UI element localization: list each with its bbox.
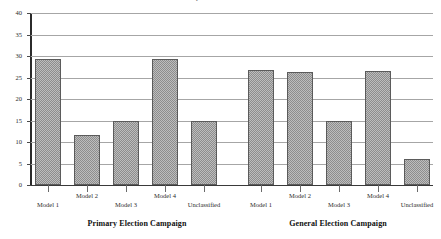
x-axis-label: Model 3: [115, 201, 137, 209]
bar: [35, 59, 61, 185]
bar: [152, 59, 178, 185]
y-tick-mark-40: [27, 13, 31, 14]
x-tick-mark: [165, 185, 166, 192]
x-axis-label: Unclassified: [401, 201, 434, 209]
bar: [326, 121, 352, 186]
gridline-30: [30, 56, 433, 57]
bar-chart: Model Composition of Election Ads 051015…: [0, 0, 441, 239]
bar: [74, 135, 100, 185]
bar: [365, 71, 391, 185]
gridline-40: [30, 13, 433, 14]
x-tick-mark: [378, 185, 379, 192]
x-tick-mark: [126, 185, 127, 192]
y-tick-mark-15: [27, 121, 31, 122]
gridline-35: [30, 35, 433, 36]
x-tick-mark: [204, 185, 205, 192]
x-axis-label: Model 3: [328, 201, 350, 209]
plot-area: [30, 13, 433, 185]
bar: [287, 72, 313, 185]
x-tick-mark: [48, 185, 49, 192]
y-tick-label-30: 30: [2, 53, 22, 60]
x-axis-label: Model 2: [76, 192, 98, 200]
x-axis-label: Unclassified: [188, 201, 221, 209]
y-tick-mark-10: [27, 142, 31, 143]
y-tick-mark-25: [27, 78, 31, 79]
x-tick-mark: [339, 185, 340, 192]
y-tick-label-35: 35: [2, 32, 22, 39]
x-axis-label: Model 1: [250, 201, 272, 209]
x-tick-mark: [261, 185, 262, 192]
x-axis-label: Model 2: [289, 192, 311, 200]
y-tick-mark-20: [27, 99, 31, 100]
y-tick-mark-5: [27, 164, 31, 165]
bar: [404, 159, 430, 185]
group-caption-primary: Primary Election Campaign: [88, 219, 187, 228]
x-axis-label: Model 1: [37, 201, 59, 209]
y-tick-label-40: 40: [2, 10, 22, 17]
chart-title: Model Composition of Election Ads: [0, 0, 441, 1]
bar: [113, 121, 139, 185]
x-tick-mark: [87, 185, 88, 192]
y-tick-label-5: 5: [2, 161, 22, 168]
y-tick-label-0: 0: [2, 182, 22, 189]
x-axis-label: Model 4: [367, 192, 389, 200]
x-tick-mark: [300, 185, 301, 192]
y-tick-label-15: 15: [2, 118, 22, 125]
bar: [191, 121, 217, 186]
y-tick-label-10: 10: [2, 139, 22, 146]
x-tick-mark: [417, 185, 418, 192]
x-axis-label: Model 4: [154, 192, 176, 200]
bar: [248, 70, 274, 185]
y-tick-label-20: 20: [2, 96, 22, 103]
group-caption-general: General Election Campaign: [289, 219, 387, 228]
y-tick-label-25: 25: [2, 75, 22, 82]
y-tick-mark-35: [27, 35, 31, 36]
x-axis: Model 1Model 2Model 3Model 4Unclassified…: [30, 185, 433, 215]
y-tick-mark-30: [27, 56, 31, 57]
